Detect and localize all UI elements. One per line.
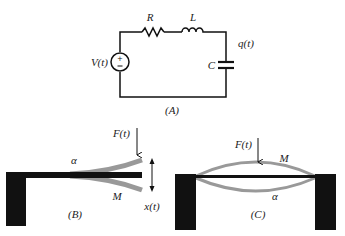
- wall: [6, 172, 26, 226]
- resistor-label: R: [146, 11, 154, 23]
- alpha-label-b: α: [71, 154, 77, 166]
- mass-label-c: M: [278, 152, 289, 164]
- caption-b: (B): [68, 208, 82, 221]
- voltage-source-icon: +: [111, 53, 129, 71]
- wall-right: [315, 174, 336, 230]
- wall-left: [175, 174, 196, 230]
- force-label-b: F(t): [112, 127, 130, 140]
- beam-deflected-up: [70, 160, 142, 174]
- cantilever-beam: F(t) α M x(t) (B): [6, 127, 160, 226]
- source-label: V(t): [91, 56, 108, 69]
- caption-a: (A): [165, 104, 179, 117]
- caption-c: (C): [251, 208, 266, 221]
- capacitor-icon: [218, 62, 234, 68]
- charge-label: q(t): [238, 37, 254, 50]
- inductor-icon: [182, 28, 204, 32]
- beam-deflected-down: [70, 176, 142, 190]
- beam-deflected-up: [196, 162, 315, 176]
- clamped-beam: F(t) M α (C): [175, 138, 336, 230]
- svg-text:+: +: [117, 55, 123, 63]
- force-label-c: F(t): [234, 138, 252, 151]
- mass-label-b: M: [111, 190, 122, 202]
- displacement-label: x(t): [143, 200, 160, 213]
- figure: + R L V(t) C q(t) (A): [0, 0, 345, 236]
- beam-deflected-down: [196, 178, 315, 191]
- rlc-circuit: + R L V(t) C q(t) (A): [91, 11, 254, 117]
- inductor-label: L: [189, 11, 196, 23]
- capacitor-label: C: [208, 59, 216, 71]
- displacement-arrow-icon: [150, 158, 155, 192]
- resistor-icon: [142, 28, 164, 36]
- alpha-label-c: α: [272, 190, 278, 202]
- beam: [196, 175, 315, 178]
- beam: [26, 172, 142, 178]
